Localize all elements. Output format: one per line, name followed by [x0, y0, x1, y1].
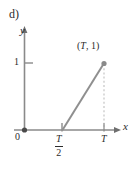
y-axis: [22, 26, 28, 130]
origin-label: 0: [15, 132, 20, 142]
fraction-denominator: 2: [55, 148, 63, 159]
x-axis-label: x: [123, 121, 128, 132]
point-annotation-label: (T, 1): [77, 41, 99, 51]
data-point-marker-T-1: [101, 61, 106, 66]
point-label-close-paren: ): [96, 40, 99, 51]
fraction-numerator: T: [55, 134, 63, 145]
x-tick-label-T: T: [101, 134, 107, 144]
ramp-line-segment: [63, 64, 104, 130]
origin-point-marker: [22, 127, 27, 132]
x-tick-label-half-T: T 2: [55, 134, 63, 158]
part-label: d): [9, 8, 19, 20]
figure-panel: d) y x 0 1 T 2 T (T, 1): [0, 0, 135, 170]
y-tick-label-1: 1: [14, 57, 19, 67]
fraction-T-over-2: T 2: [55, 134, 63, 158]
y-axis-label: y: [20, 25, 25, 36]
